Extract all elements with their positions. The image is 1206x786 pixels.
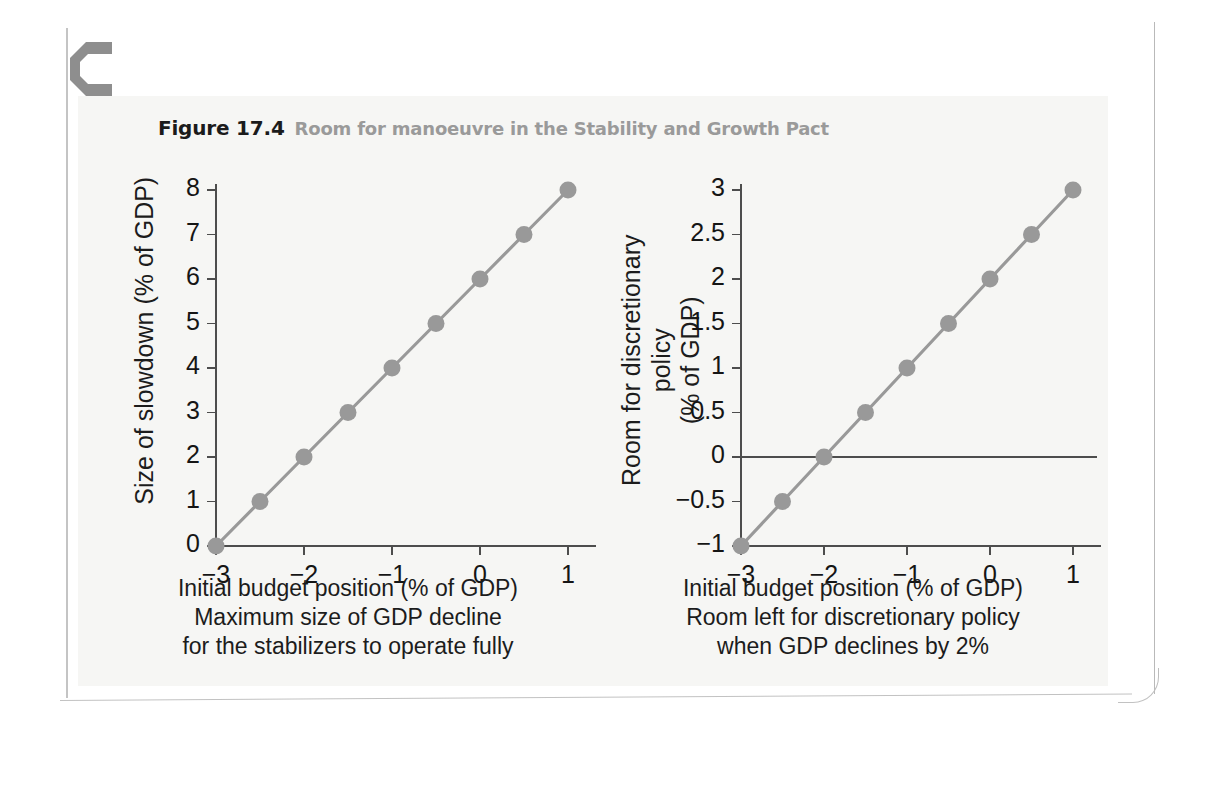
data-point-marker xyxy=(560,182,577,199)
y-tick-label: 6 xyxy=(186,262,200,291)
data-point-marker xyxy=(516,226,533,243)
y-tick-label: 4 xyxy=(186,351,200,380)
x-caption-line-2: Room left for discretionary policy xyxy=(603,603,1103,632)
chart-right: Room for discretionary policy (% of GDP)… xyxy=(603,176,1103,676)
page-edge-right xyxy=(1154,22,1155,694)
chart-right-svg xyxy=(603,176,1103,596)
y-tick-label: 0.5 xyxy=(690,396,725,425)
chart-right-plot-area: −1−0.500.511.522.53−3−2−101 xyxy=(603,176,1103,596)
y-tick-label: 3 xyxy=(711,173,725,202)
y-tick-label: 1 xyxy=(186,485,200,514)
figure-panel: Figure 17.4Room for manoeuvre in the Sta… xyxy=(78,96,1108,686)
y-tick-label: 0 xyxy=(711,440,725,469)
data-point-marker xyxy=(816,449,833,466)
data-point-marker xyxy=(1065,182,1082,199)
y-tick-label: 2.5 xyxy=(690,218,725,247)
chart-right-x-caption: Initial budget position (% of GDP)Room l… xyxy=(603,574,1103,661)
y-tick-label: 1 xyxy=(711,351,725,380)
chapter-c-mark xyxy=(68,38,114,100)
x-caption-line-3: for the stabilizers to operate fully xyxy=(98,632,598,661)
chart-left-svg xyxy=(98,176,598,596)
data-point-marker xyxy=(1023,226,1040,243)
y-tick-label: 0 xyxy=(186,529,200,558)
y-tick-label: −1 xyxy=(696,529,725,558)
y-tick-label: 2 xyxy=(711,262,725,291)
y-tick-label: 5 xyxy=(186,307,200,336)
y-tick-label: −0.5 xyxy=(676,485,725,514)
figure-caption: Figure 17.4Room for manoeuvre in the Sta… xyxy=(158,116,829,140)
page-edge-bottom xyxy=(60,693,1132,701)
data-point-marker xyxy=(774,493,791,510)
page-spine-rule xyxy=(66,28,68,698)
y-tick-label: 3 xyxy=(186,396,200,425)
data-point-marker xyxy=(982,271,999,288)
figure-number: Figure 17.4 xyxy=(158,116,285,140)
y-tick-label: 8 xyxy=(186,173,200,202)
data-point-marker xyxy=(733,538,750,555)
x-caption-line-2: Maximum size of GDP decline xyxy=(98,603,598,632)
data-point-marker xyxy=(252,493,269,510)
data-point-marker xyxy=(296,449,313,466)
chart-left: Size of slowdown (% of GDP) 012345678−3−… xyxy=(98,176,598,676)
scanned-page: Figure 17.4Room for manoeuvre in the Sta… xyxy=(0,0,1206,786)
chart-left-plot-area: 012345678−3−2−101 xyxy=(98,176,598,596)
y-tick-label: 1.5 xyxy=(690,307,725,336)
y-tick-label: 7 xyxy=(186,218,200,247)
data-point-marker xyxy=(384,360,401,377)
data-point-marker xyxy=(940,315,957,332)
chart-left-x-caption: Initial budget position (% of GDP)Maximu… xyxy=(98,574,598,661)
data-point-marker xyxy=(899,360,916,377)
data-point-marker xyxy=(428,315,445,332)
data-point-marker xyxy=(472,271,489,288)
data-point-marker xyxy=(208,538,225,555)
x-caption-line-1: Initial budget position (% of GDP) xyxy=(98,574,598,603)
y-tick-label: 2 xyxy=(186,440,200,469)
x-caption-line-1: Initial budget position (% of GDP) xyxy=(603,574,1103,603)
page-corner-curl xyxy=(1118,668,1159,703)
data-point-marker xyxy=(340,404,357,421)
data-point-marker xyxy=(857,404,874,421)
x-caption-line-3: when GDP declines by 2% xyxy=(603,632,1103,661)
figure-title: Room for manoeuvre in the Stability and … xyxy=(295,118,829,139)
